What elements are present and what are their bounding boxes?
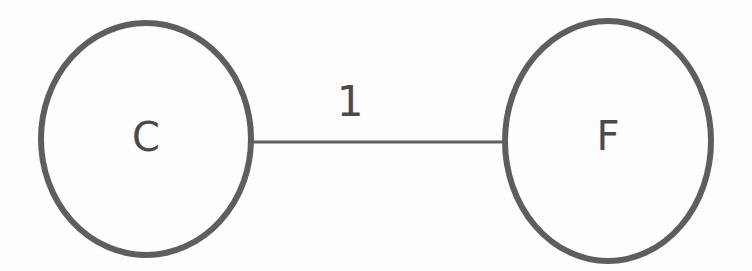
graph-svg: 1 C F [0, 0, 752, 271]
diagram-canvas: 1 C F [0, 0, 752, 271]
node-c-label: C [132, 114, 160, 160]
node-f-label: F [596, 113, 619, 159]
node-c[interactable]: C [41, 23, 251, 255]
edge-weight-label: 1 [337, 77, 364, 126]
node-f[interactable]: F [505, 21, 711, 261]
edge-c-f[interactable]: 1 [250, 77, 506, 143]
